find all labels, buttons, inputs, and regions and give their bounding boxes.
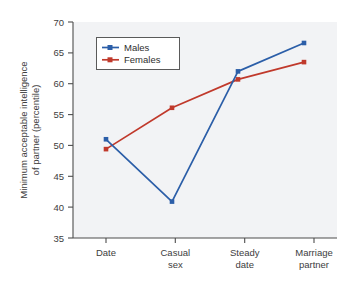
- y-axis-ticks: [68, 22, 73, 238]
- data-point-males-0: [104, 137, 109, 142]
- line-chart: 70 65 60 55 50 45 40 35 Date Casual sex …: [0, 0, 350, 287]
- x-tick-label-steady-date-line2: date: [235, 259, 254, 270]
- data-point-females-0: [104, 147, 109, 152]
- y-tick-label-55: 55: [53, 109, 64, 120]
- x-tick-label-casual-sex-line1: Casual: [161, 247, 191, 258]
- y-tick-label-50: 50: [53, 140, 64, 151]
- data-point-females-1: [170, 105, 175, 110]
- chart-figure: 70 65 60 55 50 45 40 35 Date Casual sex …: [0, 0, 350, 287]
- x-axis-ticks: [106, 238, 314, 243]
- data-point-males-2: [236, 69, 241, 74]
- legend: Males Females: [97, 38, 180, 70]
- data-point-males-1: [170, 199, 175, 204]
- y-tick-label-70: 70: [53, 17, 64, 28]
- y-axis-title-line1: Minimum acceptable intelligence: [18, 61, 29, 198]
- x-tick-label-steady-date-line1: Steady: [230, 247, 260, 258]
- y-axis-tick-labels: 70 65 60 55 50 45 40 35: [53, 17, 64, 244]
- y-tick-label-65: 65: [53, 47, 64, 58]
- y-axis-title-line2: of partner (percentile): [30, 85, 41, 176]
- legend-label-females: Females: [124, 54, 161, 65]
- y-axis-title: Minimum acceptable intelligence of partn…: [18, 61, 41, 198]
- legend-marker-males: [108, 45, 113, 50]
- data-point-females-3: [302, 60, 307, 65]
- x-tick-label-marriage-partner-line2: partner: [299, 259, 329, 270]
- x-axis-tick-labels: Date Casual sex Steady date Marriage par…: [96, 247, 333, 270]
- y-tick-label-45: 45: [53, 171, 64, 182]
- legend-marker-females: [108, 57, 113, 62]
- y-tick-label-60: 60: [53, 78, 64, 89]
- x-tick-label-casual-sex-line2: sex: [168, 259, 183, 270]
- data-point-males-3: [302, 41, 307, 46]
- legend-label-males: Males: [124, 42, 150, 53]
- data-point-females-2: [236, 77, 241, 82]
- y-tick-label-40: 40: [53, 202, 64, 213]
- x-tick-label-date-line1: Date: [96, 247, 116, 258]
- x-tick-label-marriage-partner-line1: Marriage: [295, 247, 333, 258]
- y-tick-label-35: 35: [53, 233, 64, 244]
